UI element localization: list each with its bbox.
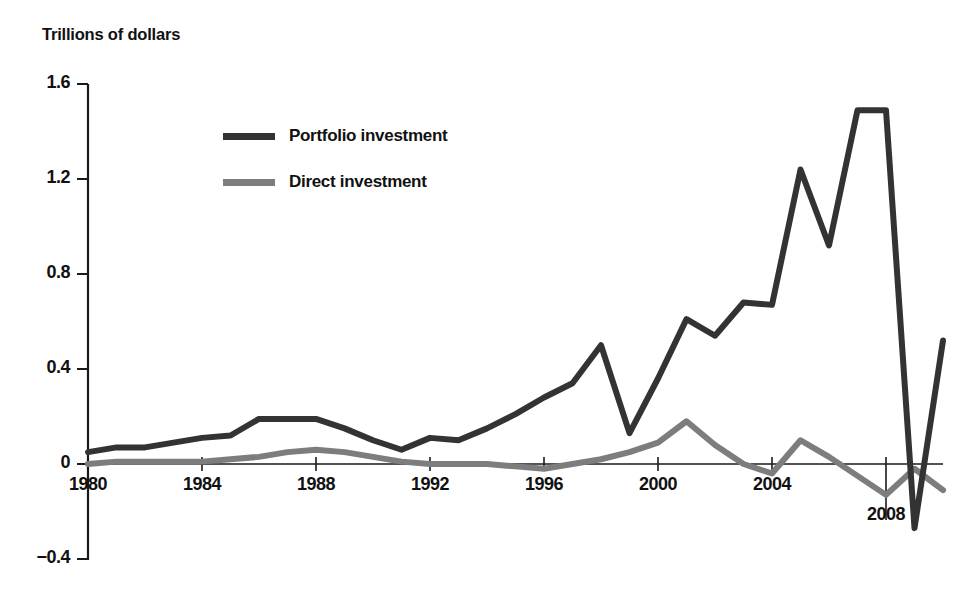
x-tick-label: 1980 [43, 474, 133, 495]
legend-label-portfolio-investment: Portfolio investment [289, 126, 447, 146]
y-tick-label: −0.4 [0, 547, 70, 568]
plot-area [0, 0, 971, 603]
x-tick-label: 1992 [385, 474, 475, 495]
y-tick-label: 1.2 [0, 167, 70, 188]
x-tick-label: 2000 [613, 474, 703, 495]
legend-item-direct-investment: Direct investment [223, 168, 447, 196]
data-series-layer [88, 110, 943, 528]
y-tick-label: 0.8 [0, 262, 70, 283]
x-tick-label: 1988 [271, 474, 361, 495]
chart-figure: Trillions of dollars 1.61.20.80.40−0.4 1… [0, 0, 971, 603]
y-tick-label: 0 [0, 452, 70, 473]
line-swatch-icon [223, 179, 275, 186]
x-tick-label: 1984 [157, 474, 247, 495]
chart-legend: Portfolio investment Direct investment [223, 122, 447, 214]
y-tick-label: 1.6 [0, 72, 70, 93]
x-tick-label: 2008 [841, 504, 931, 525]
x-tick-label: 1996 [499, 474, 589, 495]
line-swatch-icon [223, 133, 275, 140]
y-tick-label: 0.4 [0, 357, 70, 378]
x-tick-label: 2004 [727, 474, 817, 495]
legend-label-direct-investment: Direct investment [289, 172, 427, 192]
legend-item-portfolio-investment: Portfolio investment [223, 122, 447, 150]
